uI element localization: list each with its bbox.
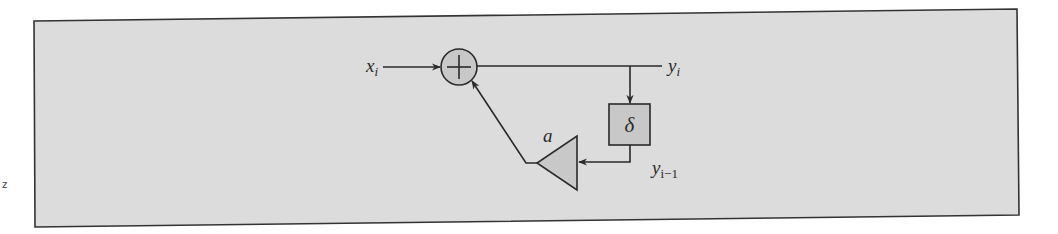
margin-mark: z — [2, 178, 8, 190]
delay-symbol: δ — [625, 113, 636, 137]
diagram-panel — [34, 9, 1019, 227]
adder-node — [441, 49, 477, 85]
gain-label: a — [543, 125, 553, 146]
filter-block-diagram: xi yi δ yi−1 a — [0, 0, 1058, 234]
delay-block: δ — [609, 104, 650, 145]
